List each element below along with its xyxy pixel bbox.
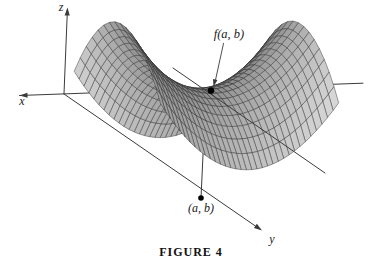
- z-axis-label: z: [59, 1, 64, 13]
- surface-value-label: f(a, b): [214, 28, 245, 41]
- domain-point-label: (a, b): [188, 202, 214, 214]
- figure-caption: FIGURE 4: [159, 245, 223, 260]
- saddle-surface-canvas: [0, 0, 377, 267]
- x-axis-label: x: [19, 95, 24, 107]
- figure-4-panel: z x y f(a, b) (a, b) FIGURE 4: [0, 0, 377, 267]
- y-axis-label: y: [269, 233, 274, 245]
